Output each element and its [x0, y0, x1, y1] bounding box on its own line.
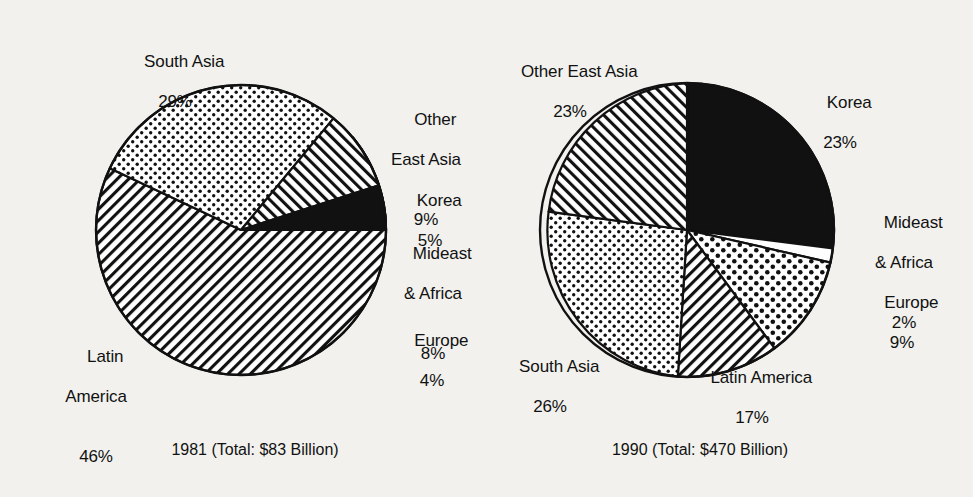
label-europe-1981-pct: 4% [381, 371, 483, 391]
label-europe-1990: Europe 9% [850, 273, 954, 393]
label-other-east-asia-1981-l1: Other [414, 110, 456, 129]
label-latin-america-1990-pct: 17% [672, 408, 832, 428]
label-south-asia-1981-pct: 29% [115, 92, 235, 112]
label-latin-america-1990-name: Latin America [710, 368, 812, 387]
label-europe-1990-name: Europe [884, 293, 938, 312]
label-south-asia-1990-pct: 26% [490, 397, 610, 417]
label-latin-america-1981: Latin America 46% [50, 327, 142, 497]
label-other-east-asia-1990: Other East Asia 23% [490, 42, 650, 162]
label-south-asia-1981-name: South Asia [144, 52, 224, 71]
label-korea-1990-pct: 23% [790, 133, 890, 153]
caption-1981: 1981 (Total: $83 Billion) [125, 440, 385, 459]
label-latin-america-1981-l1: Latin [87, 347, 123, 366]
label-south-asia-1990: South Asia 26% [490, 337, 610, 457]
label-other-east-asia-1990-pct: 23% [490, 102, 650, 122]
label-other-east-asia-1981-l2: East Asia [372, 150, 480, 170]
label-latin-america-1981-l2: America [50, 387, 142, 407]
label-south-asia-1990-name: South Asia [519, 357, 599, 376]
label-europe-1990-pct: 9% [850, 333, 954, 353]
label-mideast-africa-1990-l2: & Africa [848, 253, 960, 273]
label-other-east-asia-1990-name: Other East Asia [521, 62, 638, 81]
label-korea-1990-name: Korea [827, 93, 872, 112]
label-south-asia-1981: South Asia 29% [115, 32, 235, 152]
caption-1990: 1990 (Total: $470 Billion) [565, 440, 835, 459]
label-europe-1981-name: Europe [414, 331, 468, 350]
label-korea-1990: Korea 23% [790, 73, 890, 193]
pie-chart-figure: South Asia 29% Other East Asia 9% Korea … [0, 0, 973, 497]
label-korea-1981-name: Korea [417, 191, 462, 210]
label-mideast-africa-1981-l2: & Africa [377, 284, 489, 304]
label-mideast-africa-1981-l1: Mideast [413, 244, 472, 263]
label-mideast-africa-1990-l1: Mideast [884, 213, 943, 232]
label-europe-1981: Europe 4% [381, 311, 483, 431]
